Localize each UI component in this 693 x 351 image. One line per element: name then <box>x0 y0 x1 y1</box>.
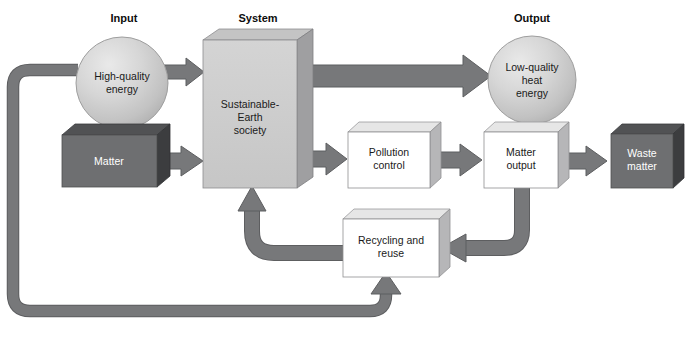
node-matter: Matter <box>62 124 170 187</box>
node-label-low-quality-heat-energy-line3: energy <box>516 87 549 99</box>
header-label-output: Output <box>514 12 550 24</box>
node-label-recycling-and-reuse-line1: Recycling and <box>358 234 424 246</box>
node-label-waste-matter-line2: matter <box>627 160 657 172</box>
node-label-low-quality-heat-energy-line1: Low-quality <box>505 61 559 73</box>
node-label-sustainable-earth-society-line2: Earth <box>237 111 262 123</box>
header-label-input: Input <box>111 12 138 24</box>
connector-matter-output-to-recycling <box>441 186 522 262</box>
node-low-quality-heat-energy: Low-quality heat energy <box>488 36 576 124</box>
node-label-low-quality-heat-energy-line2: heat <box>522 74 543 86</box>
node-sustainable-earth-society: Sustainable- Earth society <box>203 29 313 188</box>
connector-recycling-to-system <box>238 186 343 253</box>
node-label-pollution-control-line2: control <box>373 159 405 171</box>
node-matter-output: Matter output <box>484 122 569 188</box>
header-label-system: System <box>238 12 277 24</box>
connector-energy-to-system <box>163 58 204 86</box>
node-pollution-control: Pollution control <box>348 122 441 188</box>
diagram-canvas: High-quality energy Matter Sustainable- … <box>0 0 693 351</box>
node-label-pollution-control-line1: Pollution <box>369 146 409 158</box>
node-label-matter: Matter <box>94 155 124 167</box>
node-label-sustainable-earth-society-line3: society <box>234 124 267 136</box>
connector-system-to-heat <box>296 55 491 97</box>
node-label-recycling-and-reuse-line2: reuse <box>378 247 404 259</box>
node-label-matter-output-line2: output <box>506 159 535 171</box>
node-waste-matter: Waste matter <box>611 124 684 188</box>
node-recycling-and-reuse: Recycling and reuse <box>343 209 450 277</box>
node-high-quality-energy: High-quality energy <box>76 37 168 129</box>
node-label-sustainable-earth-society-line1: Sustainable- <box>221 98 280 110</box>
flow-diagram: High-quality energy Matter Sustainable- … <box>0 0 693 351</box>
node-label-high-quality-energy-line2: energy <box>106 83 139 95</box>
node-label-high-quality-energy-line1: High-quality <box>94 70 150 82</box>
node-label-matter-output-line1: Matter <box>506 146 536 158</box>
node-label-waste-matter-line1: Waste <box>627 147 657 159</box>
